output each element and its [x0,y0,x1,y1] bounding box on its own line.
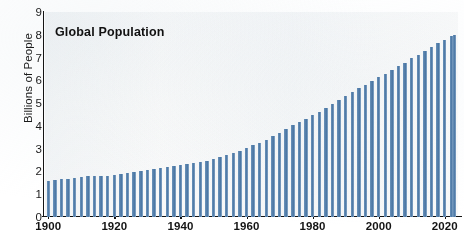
bar [238,151,241,218]
bar [199,162,202,217]
bar [119,174,122,217]
bar [403,63,406,217]
x-tick-label: 1960 [217,219,277,233]
y-axis-line [43,11,44,217]
bar [126,173,129,217]
bar [377,77,380,217]
bar [172,166,175,217]
bar [364,85,367,217]
bar [370,81,373,217]
bar-series [45,12,458,217]
bar [146,170,149,217]
y-tick-label: 9 [24,7,42,17]
bar [436,43,439,217]
y-tick-label: 3 [24,144,42,154]
bar [423,51,426,217]
x-tick-label: 2000 [349,219,409,233]
bar [265,140,268,217]
x-axis-tick-labels: 1900192019401960198020002020 [0,219,464,237]
bar [331,104,334,217]
bar [430,47,433,217]
bar [251,145,254,217]
bar [390,70,393,217]
bar [258,143,261,217]
y-tick-label: 7 [24,53,42,63]
bar [80,177,83,217]
bar [86,176,89,217]
bar [152,169,155,217]
bar [357,88,360,217]
y-axis-tick-labels: 0123456789 [24,0,42,250]
bar [159,168,162,217]
bar [324,108,327,217]
bar [443,40,446,217]
y-tick-label: 8 [24,30,42,40]
bar [271,136,274,217]
bar [245,148,248,217]
bar [453,35,456,217]
bar [179,165,182,217]
bar [311,115,314,217]
bar [298,122,301,217]
bar [410,58,413,217]
y-tick-label: 4 [24,121,42,131]
bar [53,180,56,217]
bar [113,175,116,217]
bar [278,133,281,217]
global-population-bar-chart: Billions of People 0123456789 Global Pop… [0,0,464,250]
bar [205,161,208,217]
y-tick-label: 2 [24,166,42,176]
bar [351,92,354,217]
bar [106,176,109,217]
bar [47,181,50,217]
bar [291,125,294,217]
bar [212,159,215,217]
chart-title: Global Population [55,25,165,39]
x-tick-label: 1940 [150,219,210,233]
bar [99,176,102,217]
bar [139,171,142,217]
x-tick-label: 1900 [18,219,78,233]
bar [225,155,228,217]
x-tick-label: 2020 [415,219,464,233]
bar [304,119,307,217]
y-tick-label: 6 [24,75,42,85]
bar [384,74,387,218]
bar [344,96,347,217]
y-tick-label: 5 [24,98,42,108]
bar [192,163,195,217]
bar [166,167,169,217]
bar [417,55,420,217]
bar [132,172,135,217]
bar [232,153,235,217]
bar [337,100,340,217]
bar [73,178,76,217]
bar [284,129,287,217]
bar [60,179,63,217]
bar [66,179,69,217]
x-tick-label: 1980 [283,219,343,233]
bar [218,157,221,217]
bar [318,112,321,217]
bar [397,66,400,217]
x-tick-label: 1920 [84,219,144,233]
bar [185,164,188,217]
bar [93,176,96,217]
y-tick-label: 1 [24,189,42,199]
plot-area: Global Population [45,12,458,217]
